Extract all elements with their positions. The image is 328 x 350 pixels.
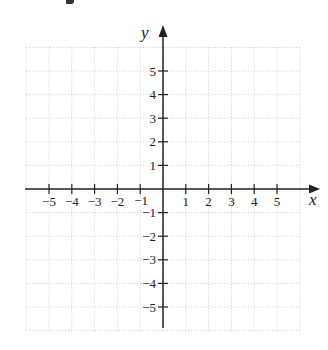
y-tick-label: −2 <box>142 229 156 244</box>
y-tick-label: 1 <box>150 158 157 173</box>
y-tick-label: −4 <box>142 276 156 291</box>
x-tick-label: 5 <box>274 194 281 209</box>
y-tick-label: 5 <box>150 64 157 79</box>
y-tick-label: 4 <box>150 87 157 102</box>
y-tick-label: −1 <box>142 205 156 220</box>
x-axis-label: x <box>308 190 317 209</box>
coordinate-plane: −5−4−3−2−11234554321−1−2−3−4−5 x y <box>0 0 328 350</box>
x-tick-label: −5 <box>42 194 56 209</box>
y-axis-arrow-icon <box>159 25 168 37</box>
x-tick-label: −2 <box>110 194 124 209</box>
x-tick-label: −4 <box>65 194 79 209</box>
y-axis-label: y <box>139 23 149 42</box>
y-tick-label: 2 <box>150 134 157 149</box>
y-tick-label: −3 <box>142 252 156 267</box>
x-tick-label: 3 <box>228 194 235 209</box>
axes <box>25 25 320 328</box>
y-tick-label: 3 <box>150 111 157 126</box>
x-tick-label: 4 <box>251 194 258 209</box>
x-tick-label: −3 <box>88 194 102 209</box>
x-tick-label: 2 <box>205 194 212 209</box>
x-tick-label: 1 <box>183 194 190 209</box>
y-tick-label: −5 <box>142 300 156 315</box>
